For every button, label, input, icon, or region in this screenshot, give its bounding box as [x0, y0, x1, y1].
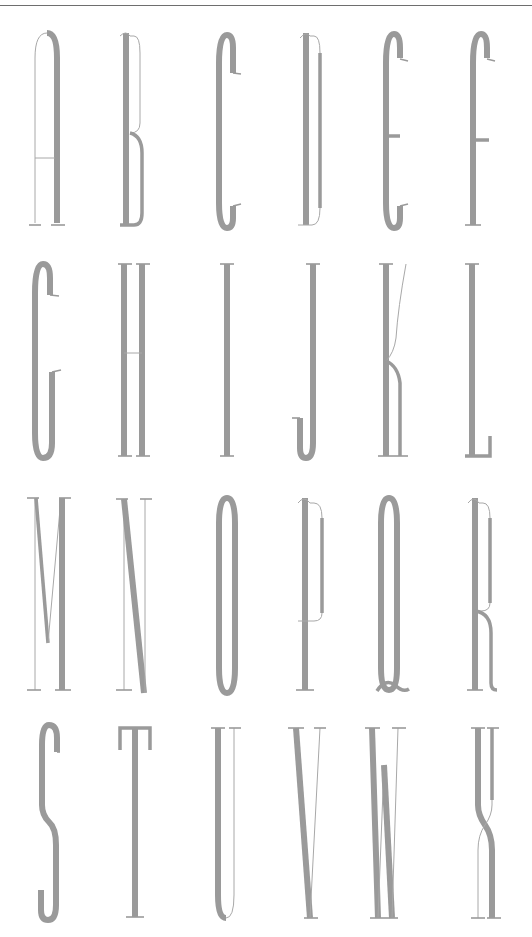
- glyph-e: E: [350, 28, 430, 233]
- glyph-l: L: [435, 258, 515, 463]
- glyph-u: U: [180, 720, 260, 925]
- glyph-f: F: [435, 28, 515, 233]
- glyph-t: T: [95, 720, 175, 925]
- glyph-o: O: [185, 493, 265, 698]
- glyph-g: G: [5, 258, 85, 463]
- glyph-j: J: [270, 258, 350, 463]
- alphabet-specimen: A B C D E: [0, 0, 532, 937]
- glyph-s: S: [5, 720, 85, 925]
- glyph-w: W: [350, 720, 430, 925]
- glyph-b: B: [90, 28, 170, 233]
- glyph-a: A: [5, 28, 85, 233]
- glyph-c: C: [185, 28, 265, 233]
- glyph-n: N: [90, 493, 170, 698]
- glyph-m: M: [5, 493, 85, 698]
- glyph-i: I: [185, 258, 265, 463]
- glyph-p: P: [270, 493, 350, 698]
- glyph-q: Q: [355, 493, 435, 698]
- glyph-d: D: [270, 28, 350, 233]
- glyph-x: X: [435, 720, 515, 925]
- glyph-h: H: [90, 258, 170, 463]
- glyph-v: V: [260, 720, 340, 925]
- glyph-k: K: [350, 258, 430, 463]
- glyph-r: R: [435, 493, 515, 698]
